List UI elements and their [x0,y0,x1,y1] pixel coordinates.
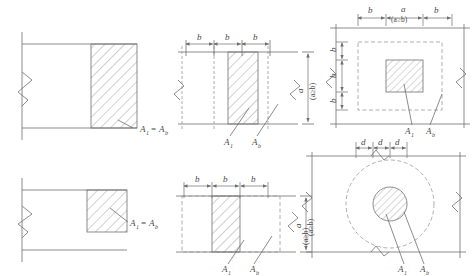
panel-bottom-middle: b b b a (a≥b) A 1 A b [176,174,315,276]
label-a1-eq-ab-tl: A [139,124,146,134]
leader-a1-tr: A [404,126,411,136]
dim-d-br-1: d [361,137,366,147]
leader-a1-bm: A [221,264,228,274]
dim-b-tr-left: b [368,5,373,15]
engineering-diagram-svg: A 1 = A b b b b a (a≥b) [0,0,474,276]
panel-bottom-left: A 1 = A b [18,178,158,262]
svg-text:1: 1 [228,270,231,276]
dim-b-tr-right: b [434,5,439,15]
svg-text:=: = [141,218,146,228]
panel-top-right: b a (a≥b) b b b b A 1 A b [326,4,470,138]
svg-text:b: b [165,130,168,136]
svg-text:1: 1 [411,132,414,138]
svg-text:b: b [426,270,429,276]
svg-text:A: A [158,124,165,134]
leader-ab-bm: A [249,264,256,274]
svg-text:1: 1 [230,143,233,149]
svg-text:b: b [258,143,261,149]
cond-tm: (a≥b) [308,82,317,100]
leader-ab-tm: A [251,137,258,147]
figure-canvas: A 1 = A b b b b a (a≥b) [0,0,474,276]
svg-text:b: b [155,224,158,230]
svg-text:b: b [432,132,435,138]
leader-a1-br: A [397,264,404,274]
cond-br: (a≥b) [301,227,310,245]
svg-text:1: 1 [146,130,149,136]
svg-text:1: 1 [404,270,407,276]
dim-d-br-2: d [378,137,383,147]
leader-ab-tr: A [425,126,432,136]
dim-b-tr-v1: b [328,47,338,52]
leader-ab-br: A [419,264,426,274]
leader-a1-tm: A [223,137,230,147]
dim-b-tm-3: b [253,32,258,42]
dim-b-tr-v3: b [328,98,338,103]
cond-tr: (a≥b) [391,15,408,24]
dim-b-tm-2: b [225,32,230,42]
dim-d-br-3: d [395,137,400,147]
dim-a-bm: a [293,223,303,228]
label-a1-eq-ab-bl: A [129,218,136,228]
dim-a-tr: a [401,4,406,14]
dim-b-tr-v2: b [328,73,338,78]
svg-text:A: A [148,218,155,228]
dim-b-bm-3: b [251,174,256,184]
svg-text:=: = [151,124,156,134]
svg-text:b: b [256,270,259,276]
dim-b-bm-2: b [223,174,228,184]
dim-a-tm: a [295,88,305,93]
dim-b-bm-1: b [195,174,200,184]
dim-b-tm-1: b [197,32,202,42]
panel-bottom-right: d d d (a≥b) A 1 A b [301,137,466,276]
panel-top-middle: b b b a (a≥b) A 1 A b [174,32,317,149]
panel-top-left: A 1 = A b [18,32,168,140]
svg-text:1: 1 [136,224,139,230]
